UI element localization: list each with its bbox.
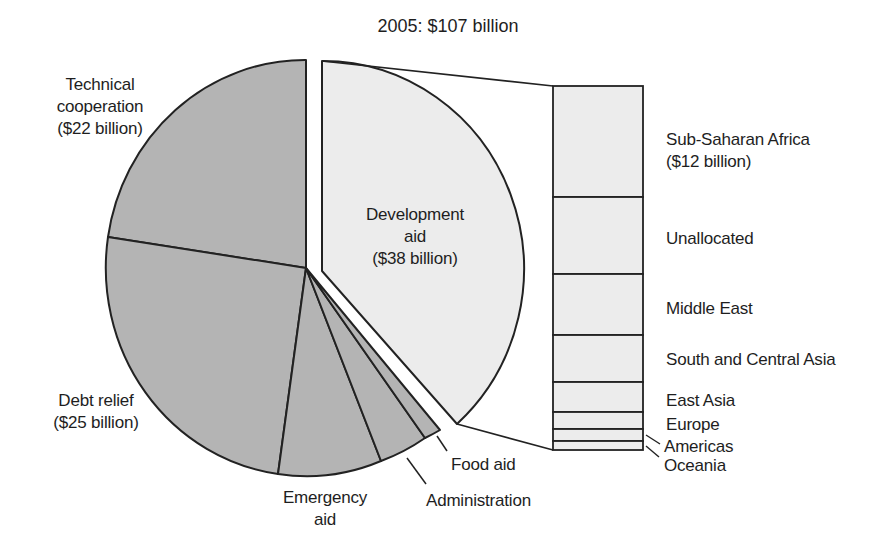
- label-east-asia: East Asia: [666, 390, 735, 412]
- bar-segment-europe: [553, 412, 643, 429]
- bar-segment-americas: [553, 429, 643, 441]
- bar-segment-sub-saharan-africa: [553, 86, 643, 197]
- leader-food-aid: [437, 436, 447, 451]
- bar-segment-middle-east: [553, 274, 643, 335]
- leader-administration: [407, 458, 426, 484]
- label-south-central-asia: South and Central Asia: [666, 349, 836, 371]
- slice-debt-relief: [106, 237, 306, 474]
- label-emergency-aid: Emergency aid: [270, 487, 380, 531]
- bar-segment-south-central-asia: [553, 335, 643, 382]
- label-sub-saharan-africa: Sub-Saharan Africa ($12 billion): [666, 129, 810, 173]
- chart-title: 2005: $107 billion: [0, 16, 896, 37]
- leader-americas: [646, 435, 660, 444]
- bar-segment-oceania: [553, 441, 643, 450]
- leader-oceania: [646, 446, 659, 457]
- connector-bottom: [457, 424, 553, 450]
- label-middle-east: Middle East: [666, 298, 753, 320]
- label-technical-cooperation: Technical cooperation ($22 billion): [40, 74, 160, 140]
- label-food-aid: Food aid: [451, 454, 516, 476]
- label-debt-relief: Debt relief ($25 billion): [36, 390, 156, 434]
- bar-segment-east-asia: [553, 382, 643, 412]
- label-oceania: Oceania: [664, 455, 726, 477]
- label-administration: Administration: [426, 490, 531, 512]
- breakdown-bar: [553, 86, 643, 450]
- bar-segment-unallocated: [553, 197, 643, 274]
- label-europe: Europe: [666, 414, 720, 436]
- label-unallocated: Unallocated: [666, 228, 754, 250]
- label-development-aid: Development aid ($38 billion): [345, 204, 485, 270]
